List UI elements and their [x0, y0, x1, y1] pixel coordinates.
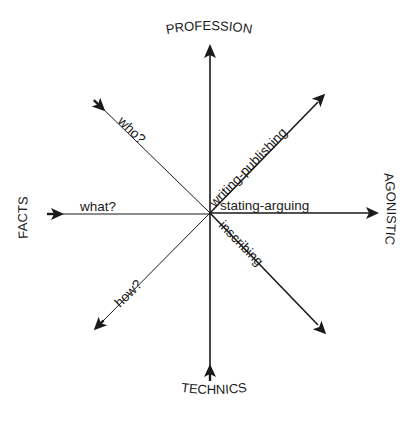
who-ray-line	[96, 102, 210, 213]
technics-pole-label: TECHNICS	[180, 380, 247, 397]
radial-diagram: who? what? how? writing-publishing stati…	[0, 0, 412, 430]
facts-pole-label: FACTS	[15, 196, 31, 240]
how-label: how?	[112, 277, 145, 310]
inscribing-label: inscribing	[216, 218, 266, 269]
what-label: what?	[79, 199, 116, 214]
who-label: who?	[114, 113, 148, 147]
what-arrow-icon	[47, 208, 64, 220]
profession-pole-label: PROFESSION	[165, 18, 254, 37]
technics-arrow-icon	[204, 364, 216, 381]
agonistic-pole-label: AGONISTIC	[381, 172, 399, 246]
stating-arguing-label: stating-arguing	[220, 198, 309, 213]
